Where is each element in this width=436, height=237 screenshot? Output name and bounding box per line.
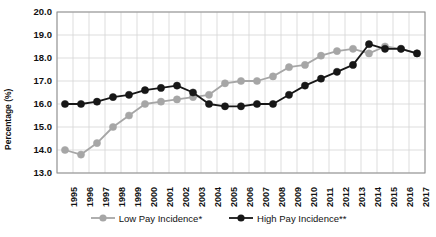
x-axis-tick: 1996	[86, 187, 95, 207]
legend-marker-icon	[228, 212, 254, 224]
chart-legend: Low Pay Incidence*High Pay Incidence**	[0, 212, 436, 224]
legend-label: High Pay Incidence**	[257, 213, 346, 224]
legend-marker-icon	[90, 212, 116, 224]
x-axis-tick: 1998	[118, 187, 127, 207]
x-axis-tick: 2006	[246, 187, 255, 207]
x-axis-tick: 2010	[310, 187, 319, 207]
x-axis-tick: 2012	[342, 187, 351, 207]
x-axis-tick: 2002	[182, 187, 191, 207]
x-axis-tick-labels: 1995199619971998199920002001200220032004…	[0, 0, 436, 237]
legend-label: Low Pay Incidence*	[119, 213, 202, 224]
x-axis-tick: 1995	[70, 187, 79, 207]
x-axis-tick: 2005	[230, 187, 239, 207]
x-axis-tick: 2014	[374, 187, 383, 207]
x-axis-tick: 2001	[166, 187, 175, 207]
x-axis-tick: 2016	[406, 187, 415, 207]
x-axis-tick: 2004	[214, 187, 223, 207]
x-axis-tick: 2008	[278, 187, 287, 207]
legend-item[interactable]: Low Pay Incidence*	[90, 212, 202, 224]
x-axis-tick: 2011	[326, 187, 335, 207]
chart-container: Percentage (%) 20.019.018.017.016.015.01…	[0, 0, 436, 237]
x-axis-tick: 1999	[134, 187, 143, 207]
x-axis-tick: 2003	[198, 187, 207, 207]
x-axis-tick: 2013	[358, 187, 367, 207]
legend-item[interactable]: High Pay Incidence**	[228, 212, 346, 224]
x-axis-tick: 2007	[262, 187, 271, 207]
x-axis-tick: 2000	[150, 187, 159, 207]
x-axis-tick: 1997	[102, 187, 111, 207]
x-axis-tick: 2015	[390, 187, 399, 207]
x-axis-tick: 2017	[422, 187, 431, 207]
x-axis-tick: 2009	[294, 187, 303, 207]
